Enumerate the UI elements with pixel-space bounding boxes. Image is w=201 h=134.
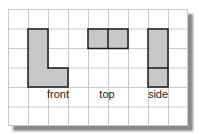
side-view-shape (148, 29, 168, 87)
top-label: top (87, 88, 127, 100)
front-label: front (38, 88, 78, 100)
orthographic-views (0, 0, 201, 134)
top-view-shape (88, 29, 128, 49)
side-label: side (138, 88, 178, 100)
front-view-shape (28, 29, 68, 87)
